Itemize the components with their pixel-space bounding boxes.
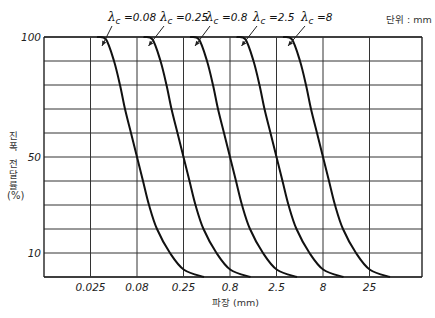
x-tick-label: 8 — [320, 281, 327, 293]
grid — [44, 37, 422, 277]
x-tick-label: 0.8 — [222, 281, 239, 293]
curve-label: λc =0.25 — [159, 10, 208, 26]
y-tick-label: 100 — [21, 31, 41, 43]
x-tick-label: 0.08 — [125, 281, 149, 293]
curve-label: λc =2.5 — [252, 10, 295, 26]
x-tick-label: 0.25 — [172, 281, 196, 293]
x-tick-label: 2.5 — [268, 281, 285, 293]
curve-label: λc =0.8 — [205, 10, 248, 26]
x-tick-label: 0.025 — [75, 281, 105, 293]
y-axis-unit: (%) — [7, 190, 24, 201]
y-axis-label-line1: 진폭 — [6, 130, 20, 152]
unit-note: 단위 : mm — [386, 14, 432, 25]
chart: 0.0250.080.250.82.58251005010 λc =0.08λc… — [0, 0, 435, 318]
curve-label-arrows — [102, 26, 305, 46]
y-tick-label: 10 — [28, 247, 42, 259]
curve-label: λc =0.08 — [107, 10, 156, 26]
x-axis-label: 파장 (mm) — [212, 297, 259, 308]
x-tick-label: 25 — [363, 281, 377, 293]
y-axis-label: 진폭 전달률 — [6, 130, 20, 191]
curve-label: λc =8 — [300, 10, 333, 26]
y-axis-label-line2: 전달률 — [6, 158, 20, 191]
y-tick-label: 50 — [28, 151, 42, 163]
curve-labels: λc =0.08λc =0.25λc =0.8λc =2.5λc =8 — [107, 10, 333, 26]
arrowhead-icon — [195, 41, 200, 46]
